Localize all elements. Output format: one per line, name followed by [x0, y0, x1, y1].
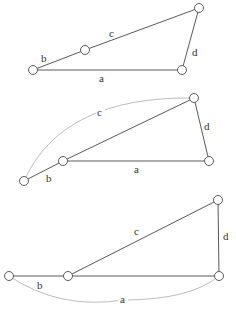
node — [215, 272, 224, 281]
node — [214, 196, 223, 205]
linkage-diagrams: b c d a c b a d b a c d — [0, 0, 236, 315]
label-c: c — [97, 106, 102, 118]
label-d: d — [204, 120, 210, 132]
edge-d — [218, 200, 219, 276]
label-b: b — [46, 172, 52, 184]
edge-d — [182, 8, 199, 70]
label-b: b — [37, 279, 43, 291]
label-b: b — [41, 52, 47, 64]
node — [178, 66, 187, 75]
node — [81, 46, 90, 55]
label-a: a — [99, 72, 104, 84]
node — [29, 66, 38, 75]
node — [20, 177, 29, 186]
label-d: d — [192, 46, 198, 58]
edge-c — [68, 200, 218, 276]
edge-b — [24, 161, 63, 181]
label-c: c — [109, 27, 114, 39]
label-c: c — [134, 225, 139, 237]
node — [195, 4, 204, 13]
node — [190, 94, 199, 103]
edge-diagonal — [63, 98, 194, 161]
diagram-3: b a c d — [5, 196, 230, 306]
edge-c — [85, 8, 199, 50]
node — [5, 272, 14, 281]
diagram-1: b c d a — [29, 4, 204, 85]
node — [64, 272, 73, 281]
node — [205, 157, 214, 166]
node — [59, 157, 68, 166]
label-a: a — [120, 293, 125, 305]
diagram-2: c b a d — [20, 94, 214, 186]
label-a: a — [134, 163, 139, 175]
label-d: d — [223, 230, 229, 242]
